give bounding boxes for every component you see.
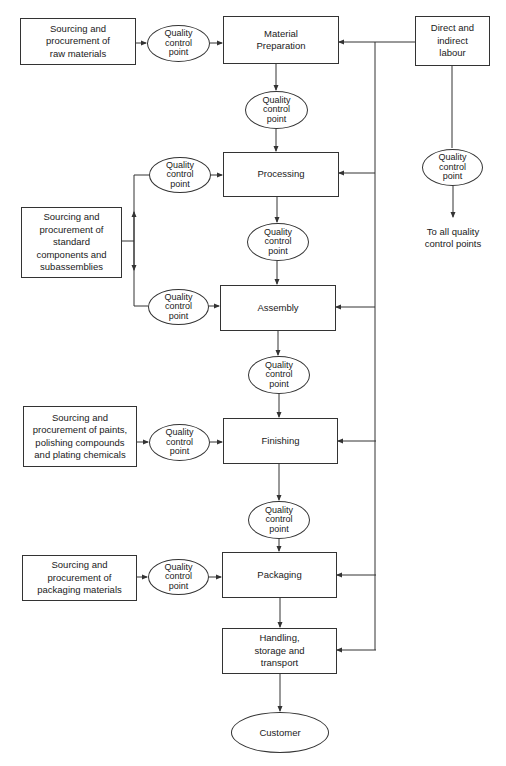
assembly-box: Assembly	[220, 285, 336, 331]
qc-raw-materials: Quality control point	[147, 25, 210, 62]
qc-labour: Quality control point	[422, 149, 483, 186]
labour-note: To all quality control points	[408, 226, 498, 250]
qc-after-processing: Quality control point	[247, 223, 309, 261]
standard-components-box: Sourcing and procurement of standard com…	[21, 207, 122, 278]
qc-after-finishing: Quality control point	[248, 501, 310, 539]
qc-processing-input: Quality control point	[149, 157, 211, 193]
paints-box: Sourcing and procurement of paints, poli…	[23, 406, 137, 467]
qc-after-material-preparation: Quality control point	[245, 91, 308, 129]
packaging-materials-box: Sourcing and procurement of packaging ma…	[22, 555, 137, 601]
processing-box: Processing	[223, 152, 339, 197]
qc-after-assembly: Quality control point	[248, 356, 310, 394]
qc-packaging-materials: Quality control point	[148, 559, 209, 595]
handling-storage-transport-box: Handling, storage and transport	[222, 628, 337, 674]
finishing-box: Finishing	[223, 418, 338, 464]
customer-ellipse: Customer	[231, 712, 329, 753]
qc-paints: Quality control point	[149, 424, 210, 461]
packaging-box: Packaging	[222, 552, 337, 598]
raw-materials-box: Sourcing and procurement of raw material…	[20, 18, 136, 65]
material-preparation-box: Material Preparation	[223, 16, 339, 64]
labour-box: Direct and indirect labour	[415, 16, 490, 66]
qc-assembly-input: Quality control point	[148, 289, 209, 325]
